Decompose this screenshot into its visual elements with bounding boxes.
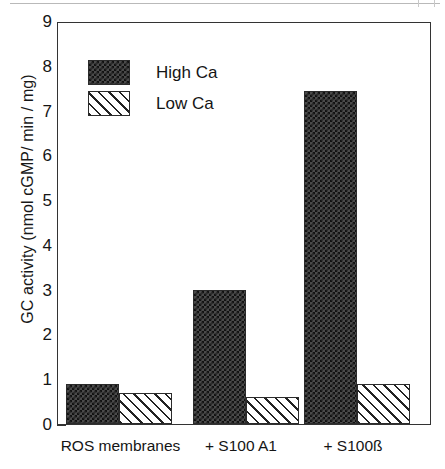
figure-bar-chart: GC activity (nmol cGMP/ min / mg) 0 1 2 … [0,0,445,469]
y-tick-label-4: 4 [18,237,52,254]
page-rule-tick-left [418,0,419,7]
x-axis-label-s100-beta: + S100ß [298,437,408,455]
bar-high-ca-s100-beta[interactable] [304,91,357,424]
x-axis-label-ros-membranes: ROS membranes [58,437,183,455]
y-tick-label-9: 9 [18,13,52,30]
legend-label-low-ca: Low Ca [156,94,214,114]
legend-item-low-ca[interactable]: Low Ca [88,88,258,119]
legend-item-high-ca[interactable]: High Ca [88,57,258,88]
bar-high-ca-ros-membranes[interactable] [66,384,119,424]
bar-low-ca-s100-beta[interactable] [357,384,410,424]
y-tick-label-2: 2 [18,326,52,343]
legend: High Ca Low Ca [88,57,258,119]
bar-low-ca-s100-a1[interactable] [246,397,299,424]
y-tick-label-1: 1 [18,371,52,388]
page-top-rule [10,3,440,4]
y-tick-mark-0 [57,425,66,426]
y-tick-label-6: 6 [18,147,52,164]
legend-label-high-ca: High Ca [156,63,217,83]
legend-swatch-high-ca-icon [88,60,130,85]
y-tick-label-3: 3 [18,282,52,299]
legend-swatch-low-ca-icon [88,91,130,116]
y-tick-label-8: 8 [18,58,52,75]
x-axis-label-s100-a1: + S100 A1 [186,437,296,455]
bar-low-ca-ros-membranes[interactable] [119,393,172,424]
page-rule-tick-right [434,0,435,7]
y-tick-label-0: 0 [18,416,52,433]
y-tick-label-7: 7 [18,103,52,120]
y-tick-label-5: 5 [18,192,52,209]
bar-high-ca-s100-a1[interactable] [193,290,246,424]
